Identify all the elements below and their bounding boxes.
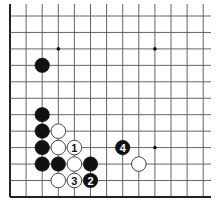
white-stone-move-1: 1 [67,140,82,155]
black-stone [83,157,98,172]
move-number: 3 [71,175,77,187]
stone-disc [67,157,82,172]
black-stone-move-4: 4 [115,140,130,155]
black-stone [35,140,50,155]
black-stone [35,58,50,73]
stone-disc [83,157,98,172]
stone-disc [35,124,50,139]
black-stone [35,107,50,122]
stone-disc [35,107,50,122]
go-board: 1234 [0,0,217,210]
move-number: 1 [71,142,77,154]
black-stone-move-2: 2 [83,173,98,188]
stone-disc [35,140,50,155]
black-stone [35,124,50,139]
white-stone [51,173,66,188]
white-stone [51,140,66,155]
move-number: 4 [120,142,127,154]
hoshi-point [153,146,157,150]
stone-disc [51,157,66,172]
stone-disc [132,157,147,172]
white-stone [132,157,147,172]
move-number: 2 [87,175,93,187]
black-stone [51,157,66,172]
stone-disc [51,173,66,188]
white-stone [51,124,66,139]
hoshi-point [57,47,61,51]
hoshi-point [153,47,157,51]
stone-disc [51,140,66,155]
stone-disc [51,124,66,139]
white-stone [67,157,82,172]
white-stone-move-3: 3 [67,173,82,188]
black-stone [35,157,50,172]
stone-disc [35,157,50,172]
stone-disc [35,58,50,73]
